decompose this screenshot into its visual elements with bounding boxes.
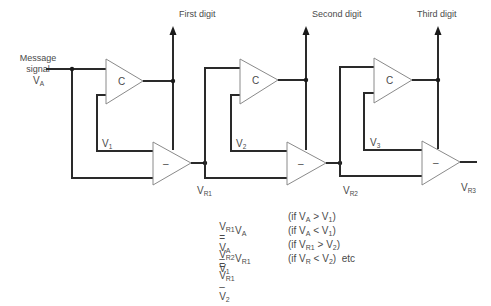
stage3-subtractor-label: –	[433, 157, 439, 168]
stage1-digit-arrow-icon	[170, 26, 177, 35]
stage3-residual-label: VR3	[461, 182, 476, 194]
stage2-signal-to-comparator-wire	[205, 68, 240, 163]
stage1-comparator-label: C	[118, 76, 125, 87]
equation-row-2-condition: (if VA < V1)	[288, 226, 336, 237]
stage-2: C Second digit – V2 VR2	[205, 9, 362, 197]
equation-row-4: VR1	[235, 254, 251, 265]
stage1-subtractor-label: –	[163, 158, 169, 169]
stage3-comparator-label: C	[386, 75, 393, 86]
stage-3: C Third digit – V3 VR3	[340, 9, 477, 194]
input-label-line1: Message	[20, 53, 57, 63]
stage1-input-junction	[70, 67, 74, 71]
equation-row-1-condition: (if VA > V1)	[288, 212, 336, 223]
stage3-subtractor	[422, 141, 460, 185]
stage2-residual-label: VR2	[343, 185, 358, 197]
stage3-digit-junction	[436, 78, 440, 82]
stage3-digit-arrow-icon	[435, 26, 442, 35]
stage1-digit-label: First digit	[179, 9, 216, 19]
stage2-subtractor-label: –	[298, 158, 304, 169]
stage2-digit-arrow-icon	[303, 26, 310, 35]
stage2-reference-label: V2	[236, 138, 247, 150]
stage2-comparator-label: C	[252, 75, 259, 86]
equation-row-4-condition: (if VR < V2) etc	[288, 254, 355, 265]
stage2-digit-junction	[304, 78, 308, 82]
stage3-signal-to-subtractor-wire	[340, 163, 422, 176]
equation-row-2: VA	[235, 226, 246, 237]
stage1-residual-label: VR1	[197, 185, 212, 197]
stage-1: C First digit – V1 VR1	[46, 9, 216, 197]
input-symbol: VA	[33, 75, 45, 87]
stage2-digit-label: Second digit	[312, 9, 362, 19]
stage2-signal-to-subtractor-wire	[205, 163, 287, 178]
stage3-signal-to-comparator-wire	[340, 67, 374, 163]
stage3-reference-label: V3	[370, 137, 381, 149]
stage1-reference-label: V1	[102, 138, 113, 150]
stage1-digit-junction	[171, 79, 175, 83]
equation-row-3: VR2 = VR1 – V2	[208, 240, 235, 306]
equation-row-3-condition: (if VR1 > V2)	[288, 240, 340, 251]
stage3-digit-label: Third digit	[417, 9, 457, 19]
